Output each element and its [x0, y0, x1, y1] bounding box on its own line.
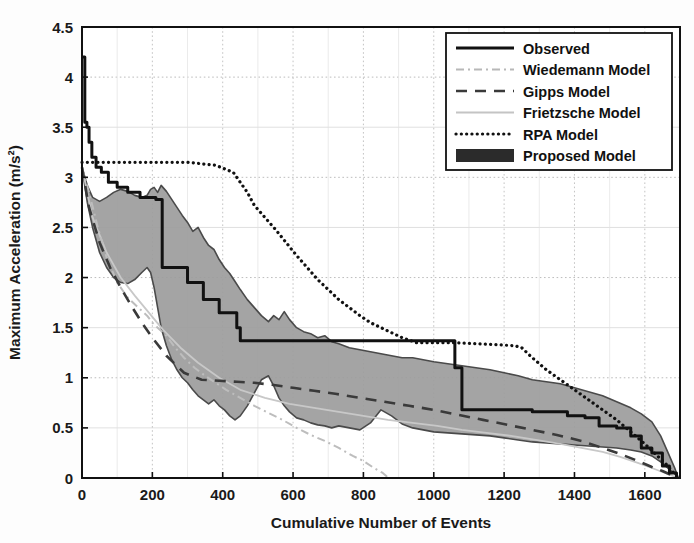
chart-svg: 0200400600800100012001400160000.511.522.…: [0, 0, 694, 543]
chart-figure: 0200400600800100012001400160000.511.522.…: [0, 0, 694, 543]
xtick-label: 200: [140, 486, 165, 503]
ytick-label: 0.5: [52, 419, 73, 436]
xtick-label: 400: [210, 486, 235, 503]
legend-swatch-filled-band: [456, 149, 514, 162]
xtick-label: 1400: [558, 486, 591, 503]
xtick-label: 1000: [417, 486, 450, 503]
legend-item-proposed-model[interactable]: Proposed Model: [456, 148, 636, 164]
legend-label: RPA Model: [523, 127, 598, 143]
legend-label: Gipps Model: [523, 84, 610, 100]
ytick-label: 2.5: [52, 219, 73, 236]
ytick-label: 4: [65, 69, 74, 86]
ytick-label: 2: [65, 269, 73, 286]
ytick-label: 1: [65, 369, 73, 386]
chart-legend: ObservedWiedemann ModelGipps ModelFrietz…: [446, 33, 672, 170]
ytick-label: 3.5: [52, 119, 73, 136]
legend-label: Observed: [523, 41, 590, 57]
legend-label: Frietzsche Model: [523, 105, 641, 121]
xtick-label: 800: [351, 486, 376, 503]
x-axis-title: Cumulative Number of Events: [271, 514, 492, 531]
xtick-label: 600: [281, 486, 306, 503]
legend-label: Wiedemann Model: [523, 62, 650, 78]
legend-label: Proposed Model: [523, 148, 636, 164]
xtick-label: 1200: [487, 486, 520, 503]
xtick-label: 1600: [628, 486, 661, 503]
ytick-label: 1.5: [52, 319, 73, 336]
xtick-label: 0: [78, 486, 86, 503]
y-axis-title: Maximum Acceleration (m/s²): [6, 145, 23, 360]
ytick-label: 0: [65, 470, 73, 487]
ytick-label: 3: [65, 169, 73, 186]
ytick-label: 4.5: [52, 19, 73, 36]
